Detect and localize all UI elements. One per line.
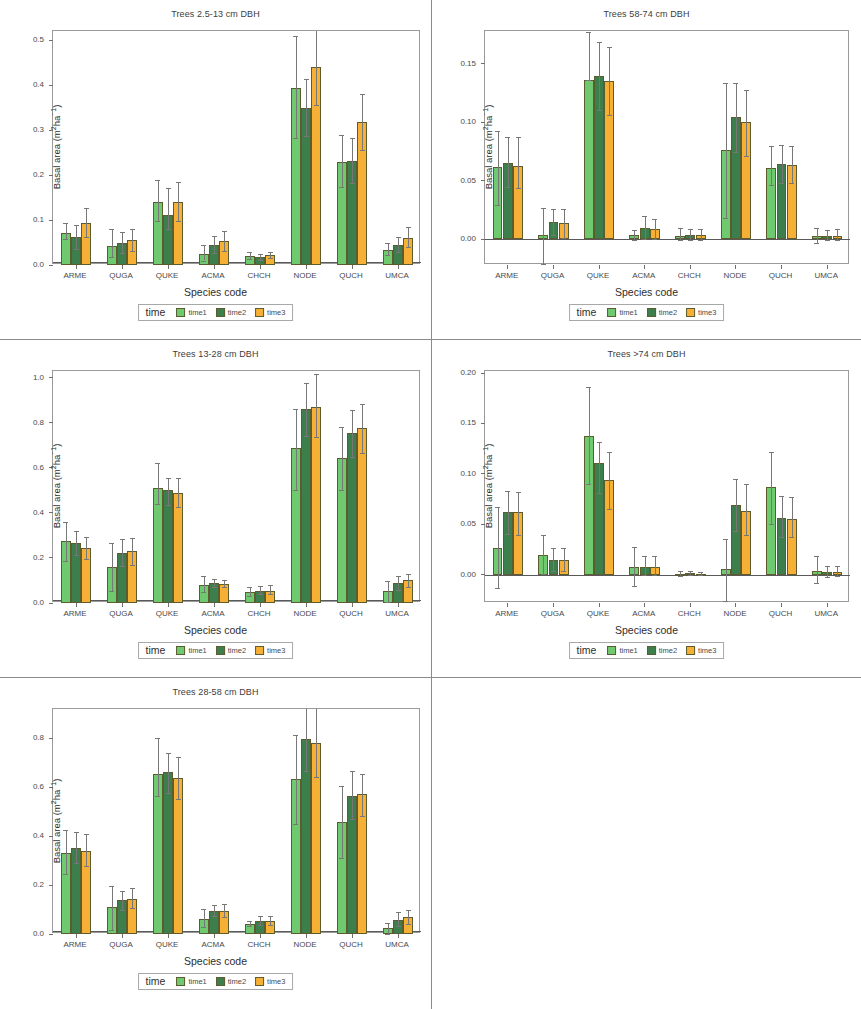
error-cap-bottom (744, 535, 749, 536)
error-cap-top (586, 32, 591, 33)
error-cap-bottom (551, 235, 556, 236)
x-tick-mark (260, 265, 261, 269)
error-cap-bottom (293, 490, 298, 491)
legend-item-time2[interactable]: time2 (647, 646, 677, 655)
y-tick-mark (49, 85, 53, 86)
x-tick-label-ARME: ARME (50, 271, 100, 280)
error-cap-bottom (642, 239, 647, 240)
bar-QUKE-time1 (153, 488, 163, 603)
error-bar-NODE-time2 (736, 83, 737, 152)
legend-label-time1: time1 (619, 646, 637, 655)
error-bar-QUKE-time2 (168, 753, 169, 793)
error-bar-ACMA-time2 (214, 905, 215, 917)
plot-area: 0.000.050.100.15 (484, 30, 849, 264)
error-cap-bottom (212, 916, 217, 917)
error-cap-top (176, 478, 181, 479)
error-bar-ACMA-time1 (204, 245, 205, 260)
y-tick-mark (49, 422, 53, 423)
error-bar-QUKE-time3 (178, 478, 179, 507)
error-cap-bottom (360, 816, 365, 817)
error-cap-top (551, 548, 556, 549)
error-bar-QUGA-time1 (112, 543, 113, 591)
error-bar-QUCH-time3 (362, 774, 363, 816)
x-tick-label-CHCH: CHCH (234, 940, 284, 949)
error-bar-ARME-time3 (86, 537, 87, 559)
legend-item-time1[interactable]: time1 (607, 308, 637, 317)
legend-item-time2[interactable]: time2 (216, 308, 246, 317)
error-cap-top (723, 539, 728, 540)
error-bar-QUKE-time3 (178, 182, 179, 222)
error-cap-top (130, 888, 135, 889)
legend-swatch-time3 (255, 308, 264, 317)
error-cap-bottom (258, 594, 263, 595)
error-cap-top (396, 237, 401, 238)
error-cap-bottom (789, 537, 794, 538)
x-tick-mark (352, 934, 353, 938)
error-cap-top (835, 566, 840, 567)
y-tick-label: 0.20 (446, 368, 476, 377)
error-bar-ARME-time1 (66, 223, 67, 239)
bar-NODE-time2 (301, 409, 311, 603)
panel-title: Trees 58-74 cm DBH (432, 9, 861, 19)
legend[interactable]: timetime1time2time3 (569, 304, 725, 321)
legend-item-time1[interactable]: time1 (176, 308, 206, 317)
error-bar-ACMA-time3 (224, 231, 225, 250)
error-bar-UMCA-time1 (388, 923, 389, 934)
legend-item-time2[interactable]: time2 (216, 977, 246, 986)
error-bar-QUGA-time2 (122, 232, 123, 254)
bar-QUKE-time3 (173, 778, 183, 934)
error-bar-ACMA-time1 (634, 547, 635, 586)
bar-QUKE-time3 (173, 493, 183, 603)
error-bar-NODE-time1 (296, 409, 297, 491)
x-tick-label-UMCA: UMCA (801, 271, 851, 280)
error-cap-bottom (339, 490, 344, 491)
x-tick-mark (553, 603, 554, 607)
legend[interactable]: timetime1time2time3 (138, 304, 294, 321)
legend-item-time1[interactable]: time1 (607, 646, 637, 655)
error-bar-QUGA-time3 (564, 209, 565, 237)
error-bar-CHCH-time1 (680, 228, 681, 240)
legend-label-time3: time3 (267, 977, 285, 986)
legend-item-time3[interactable]: time3 (686, 646, 716, 655)
error-cap-bottom (109, 257, 114, 258)
x-tick-label-ACMA: ACMA (188, 271, 238, 280)
x-tick-mark (735, 603, 736, 607)
chart-panel-empty (432, 678, 861, 1009)
error-cap-top (268, 585, 273, 586)
error-cap-bottom (632, 586, 637, 587)
error-cap-top (825, 566, 830, 567)
error-cap-top (74, 832, 79, 833)
legend-item-time1[interactable]: time1 (176, 646, 206, 655)
legend[interactable]: timetime1time2time3 (138, 642, 294, 659)
legend-item-time2[interactable]: time2 (216, 646, 246, 655)
legend[interactable]: timetime1time2time3 (138, 973, 294, 990)
error-cap-top (779, 145, 784, 146)
error-cap-bottom (642, 575, 647, 576)
legend-item-time2[interactable]: time2 (647, 308, 677, 317)
error-bar-CHCH-time3 (270, 916, 271, 926)
legend-item-time3[interactable]: time3 (686, 308, 716, 317)
error-cap-top (314, 374, 319, 375)
error-cap-bottom (247, 259, 252, 260)
legend[interactable]: timetime1time2time3 (569, 642, 725, 659)
x-tick-mark (352, 265, 353, 269)
legend-item-time1[interactable]: time1 (176, 977, 206, 986)
y-tick-label: 0.2 (14, 553, 44, 562)
error-cap-bottom (222, 251, 227, 252)
error-bar-QUGA-time3 (132, 888, 133, 908)
legend-swatch-time3 (686, 308, 695, 317)
legend-item-time3[interactable]: time3 (255, 977, 285, 986)
error-cap-bottom (268, 925, 273, 926)
x-tick-mark (306, 603, 307, 607)
y-tick-label: 0.10 (446, 469, 476, 478)
error-cap-bottom (222, 587, 227, 588)
error-cap-top (541, 535, 546, 536)
legend-item-time3[interactable]: time3 (255, 308, 285, 317)
error-bar-UMCA-time3 (837, 229, 838, 240)
y-tick-label: 0.15 (446, 59, 476, 68)
error-cap-bottom (505, 187, 510, 188)
error-cap-bottom (779, 183, 784, 184)
legend-item-time3[interactable]: time3 (255, 646, 285, 655)
error-cap-bottom (63, 874, 68, 875)
error-bar-NODE-time2 (736, 479, 737, 531)
